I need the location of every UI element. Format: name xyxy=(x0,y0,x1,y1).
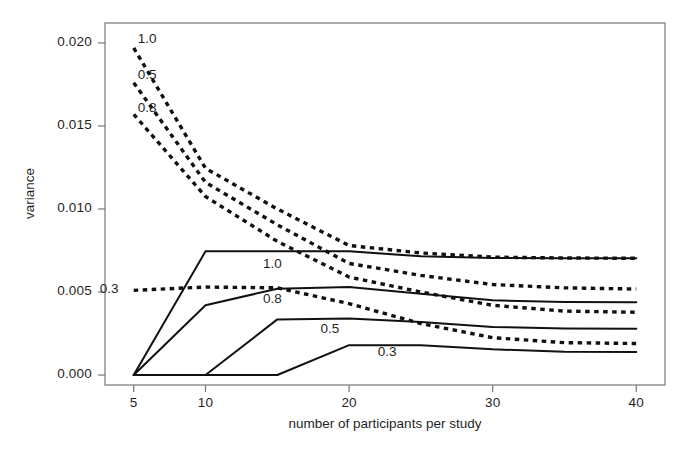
y-axis-title: variance xyxy=(22,154,37,234)
series-line-1-0-dashed xyxy=(134,48,637,258)
y-tick-label: 0.005 xyxy=(32,283,92,298)
axis-ticks xyxy=(98,43,636,392)
series-line-0-8-solid xyxy=(134,287,637,375)
x-tick-label: 40 xyxy=(611,395,661,410)
x-tick-label: 10 xyxy=(181,395,231,410)
series-label: 0.3 xyxy=(378,344,397,359)
series-label: 0.5 xyxy=(138,67,157,82)
series-line-0-3-dashed xyxy=(134,287,637,343)
y-tick-label: 0.000 xyxy=(32,366,92,381)
chart-figure: variance number of participants per stud… xyxy=(0,0,697,461)
x-tick-label: 20 xyxy=(324,395,374,410)
series-label: 1.0 xyxy=(263,256,282,271)
plot-frame xyxy=(105,23,665,385)
data-series xyxy=(134,48,637,375)
plot-canvas xyxy=(0,0,697,461)
x-tick-label: 5 xyxy=(109,395,159,410)
x-tick-label: 30 xyxy=(468,395,518,410)
series-label: 0.8 xyxy=(138,100,157,115)
y-tick-label: 0.010 xyxy=(32,200,92,215)
series-label: 0.3 xyxy=(100,281,119,296)
y-tick-label: 0.015 xyxy=(32,117,92,132)
y-tick-label: 0.020 xyxy=(32,34,92,49)
x-axis-title: number of participants per study xyxy=(105,416,665,431)
series-label: 0.8 xyxy=(263,291,282,306)
series-label: 1.0 xyxy=(138,31,157,46)
series-line-0-8-dashed xyxy=(134,114,637,312)
series-label: 0.5 xyxy=(320,321,339,336)
